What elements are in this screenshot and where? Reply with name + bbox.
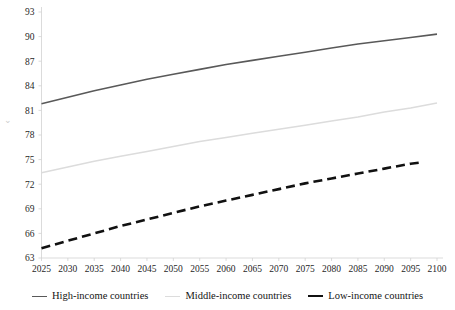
x-tick-label: 2070 bbox=[269, 264, 288, 274]
x-tick-label: 2065 bbox=[243, 264, 262, 274]
legend-item-label: High-income countries bbox=[52, 291, 149, 302]
legend-swatch-middle-income bbox=[165, 296, 180, 297]
legend-swatch-high-income bbox=[32, 296, 47, 297]
legend-item-label: Low-income countries bbox=[328, 291, 423, 302]
x-tick-label: 2050 bbox=[164, 264, 183, 274]
x-tick-label: 2075 bbox=[296, 264, 315, 274]
chart-plot-area: 6366697275788184879093202520302035204020… bbox=[0, 0, 455, 310]
x-tick-label: 2045 bbox=[137, 264, 156, 274]
y-tick-label: 69 bbox=[25, 204, 35, 214]
x-tick-label: 2090 bbox=[375, 264, 394, 274]
y-tick-label: 72 bbox=[25, 180, 35, 190]
x-tick-label: 2100 bbox=[428, 264, 447, 274]
y-tick-label: 81 bbox=[25, 106, 35, 116]
x-tick-label: 2095 bbox=[401, 264, 420, 274]
y-tick-label: 87 bbox=[25, 57, 35, 67]
legend-item[interactable]: Middle-income countries bbox=[165, 291, 291, 302]
chart-legend: High-income countriesMiddle-income count… bbox=[0, 286, 455, 306]
y-tick-label: 75 bbox=[25, 155, 35, 165]
x-tick-label: 2055 bbox=[190, 264, 209, 274]
y-tick-label: 84 bbox=[25, 81, 35, 91]
series-line-middle-income-countries bbox=[42, 103, 438, 173]
x-tick-label: 2060 bbox=[217, 264, 236, 274]
y-tick-label: 66 bbox=[25, 229, 35, 239]
x-tick-label: 2035 bbox=[85, 264, 104, 274]
x-tick-label: 2040 bbox=[111, 264, 130, 274]
legend-item[interactable]: Low-income countries bbox=[308, 291, 423, 302]
y-tick-label: 90 bbox=[25, 32, 35, 42]
legend-item[interactable]: High-income countries bbox=[32, 291, 149, 302]
x-tick-label: 2025 bbox=[32, 264, 51, 274]
y-tick-label: 78 bbox=[25, 130, 35, 140]
legend-item-label: Middle-income countries bbox=[185, 291, 291, 302]
series-line-low-income-countries bbox=[42, 162, 422, 248]
y-tick-label: 93 bbox=[25, 7, 35, 17]
y-tick-label: 63 bbox=[25, 253, 35, 263]
line-chart: 6366697275788184879093202520302035204020… bbox=[0, 0, 455, 310]
series-line-high-income-countries bbox=[42, 34, 438, 104]
legend-swatch-low-income bbox=[308, 295, 323, 297]
x-tick-label: 2080 bbox=[322, 264, 341, 274]
x-tick-label: 2085 bbox=[348, 264, 367, 274]
x-tick-label: 2030 bbox=[58, 264, 77, 274]
axis-stub-glyph: ⌄ bbox=[4, 115, 12, 125]
